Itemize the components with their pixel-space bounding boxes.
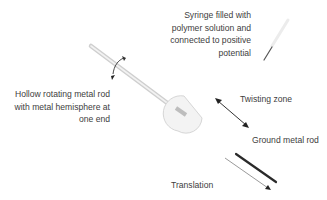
metal-hemisphere-icon	[163, 96, 202, 133]
syringe-label-line: connected to positive	[170, 34, 251, 47]
hollow-rod-label-line: Hollow rotating metal rod	[10, 88, 110, 101]
hollow-rod-label-line: one end	[10, 113, 110, 126]
ground-rod-label: Ground metal rod	[252, 134, 319, 147]
syringe-label-line: polymer solution and	[170, 22, 251, 35]
syringe-label-line: potential	[170, 47, 251, 60]
syringe-icon	[264, 20, 288, 60]
hollow-rod-label: Hollow rotating metal rod with metal hem…	[10, 88, 110, 126]
twisting-zone-label: Twisting zone	[240, 93, 292, 106]
translation-label: Translation	[171, 179, 213, 192]
syringe-label-line: Syringe filled with	[170, 9, 251, 22]
syringe-label: Syringe filled with polymer solution and…	[170, 9, 251, 59]
hollow-rod-label-line: with metal hemisphere at	[10, 101, 110, 114]
ground-rod-icon	[236, 154, 276, 182]
